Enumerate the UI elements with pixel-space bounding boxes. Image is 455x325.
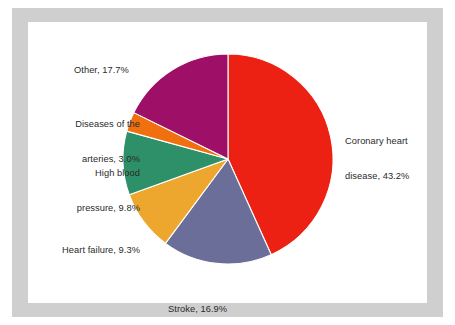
pie-label-stroke: Stroke, 16.9% xyxy=(168,281,227,325)
pie-label-stroke-line1: Stroke, 16.9% xyxy=(168,304,227,316)
pie-label-coronary-heart-disease-line1: Coronary heart xyxy=(345,136,449,148)
pie-label-high-blood-pressure-line1: High blood xyxy=(30,168,140,180)
pie-label-high-blood-pressure-line2: pressure, 9.8% xyxy=(30,203,140,215)
pie-label-coronary-heart-disease: Coronary heart disease, 43.2% xyxy=(345,113,449,206)
pie-label-diseases-of-the-arteries-line1: Diseases of the xyxy=(30,119,140,131)
figure-container: Other, 17.7% Diseases of the arteries, 3… xyxy=(0,0,455,325)
pie-label-heart-failure: Heart failure, 9.3% xyxy=(30,222,140,280)
pie-label-coronary-heart-disease-line2: disease, 43.2% xyxy=(345,171,449,183)
pie-label-other-line1: Other, 17.7% xyxy=(74,65,129,77)
pie-slice-group xyxy=(123,54,333,264)
pie-chart-plot-area: Other, 17.7% Diseases of the arteries, 3… xyxy=(0,0,455,325)
pie-label-other: Other, 17.7% xyxy=(74,42,129,100)
pie-label-heart-failure-line1: Heart failure, 9.3% xyxy=(30,245,140,257)
